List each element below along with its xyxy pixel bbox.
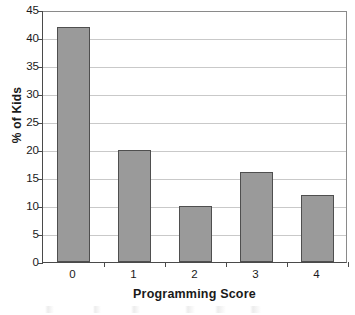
bars-group [43,11,346,262]
y-tick-label: 15 [9,173,39,185]
x-axis-title: Programming Score [42,287,347,301]
x-tick-mark [226,262,227,267]
bar [179,206,212,262]
x-tick-mark [287,262,288,267]
scan-artifact [45,306,310,313]
bar-chart-figure: % of Kids 051015202530354045 01234 Progr… [0,0,355,315]
x-tick-mark [348,262,349,267]
plot-area [42,11,347,263]
bar [57,27,90,262]
x-tick-mark [104,262,105,267]
y-tick-label: 25 [9,117,39,129]
bar [301,195,334,262]
bar [240,172,273,262]
x-tick-label: 3 [236,268,276,280]
y-tick-label: 30 [9,89,39,101]
y-tick-label: 5 [9,229,39,241]
x-tick-label: 4 [297,268,337,280]
x-tick-mark [165,262,166,267]
x-tick-label: 2 [175,268,215,280]
x-tick-label: 0 [53,268,93,280]
bar [118,150,151,262]
y-tick-label: 10 [9,201,39,213]
y-tick-label: 20 [9,145,39,157]
y-tick-label: 45 [9,5,39,17]
y-tick-label: 35 [9,61,39,73]
x-tick-label: 1 [114,268,154,280]
y-tick-label: 0 [9,257,39,269]
y-tick-label: 40 [9,33,39,45]
